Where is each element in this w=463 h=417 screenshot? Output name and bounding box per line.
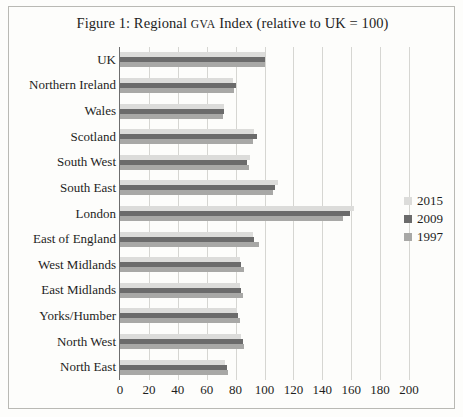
legend-item: 1997 bbox=[404, 228, 443, 246]
y-axis-category-label: Yorks/Humber bbox=[12, 308, 116, 324]
x-tick-label: 160 bbox=[341, 382, 361, 398]
y-axis-category-label: London bbox=[12, 206, 116, 222]
x-tick-label: 20 bbox=[142, 382, 155, 398]
y-axis-category-label: North East bbox=[12, 359, 116, 375]
legend-label: 1997 bbox=[417, 229, 443, 245]
x-tick-label: 80 bbox=[229, 382, 242, 398]
legend-item: 2015 bbox=[404, 192, 443, 210]
bar bbox=[120, 242, 259, 247]
x-tick-label: 100 bbox=[255, 382, 275, 398]
legend-swatch-icon bbox=[404, 197, 412, 205]
y-axis-category-label: East Midlands bbox=[12, 282, 116, 298]
x-tick-label: 180 bbox=[370, 382, 390, 398]
y-axis-category-label: East of England bbox=[12, 231, 116, 247]
bar bbox=[120, 190, 273, 195]
legend-swatch-icon bbox=[404, 215, 412, 223]
x-tick-label: 140 bbox=[313, 382, 333, 398]
x-tick-label: 60 bbox=[200, 382, 213, 398]
x-tick-label: 200 bbox=[399, 382, 419, 398]
x-tick-label: 0 bbox=[117, 382, 124, 398]
gridline bbox=[380, 47, 381, 380]
gridline bbox=[351, 47, 352, 380]
bar bbox=[120, 293, 243, 298]
bar bbox=[120, 344, 244, 349]
y-axis-category-label: South East bbox=[12, 180, 116, 196]
y-axis-category-label: South West bbox=[12, 154, 116, 170]
bar bbox=[120, 216, 343, 221]
bar bbox=[120, 318, 240, 323]
bar bbox=[120, 62, 265, 67]
chart-legend: 201520091997 bbox=[404, 192, 443, 246]
x-tick-label: 120 bbox=[284, 382, 304, 398]
bar bbox=[120, 139, 253, 144]
figure-frame: Figure 1: Regional GVA Index (relative t… bbox=[8, 6, 455, 409]
bar bbox=[120, 165, 249, 170]
bar bbox=[120, 370, 228, 375]
legend-label: 2015 bbox=[417, 193, 443, 209]
y-axis-category-label: UK bbox=[12, 52, 116, 68]
y-axis-category-label: Scotland bbox=[12, 129, 116, 145]
plot-area: 020406080100120140160180200 UKNorthern I… bbox=[119, 47, 408, 380]
bar bbox=[120, 88, 234, 93]
legend-label: 2009 bbox=[417, 211, 443, 227]
y-axis-category-label: Northern Ireland bbox=[12, 77, 116, 93]
legend-item: 2009 bbox=[404, 210, 443, 228]
bar bbox=[120, 267, 244, 272]
x-tick-label: 40 bbox=[171, 382, 184, 398]
bar bbox=[120, 114, 223, 119]
legend-swatch-icon bbox=[404, 233, 412, 241]
plot-wrap: 020406080100120140160180200 UKNorthern I… bbox=[9, 7, 456, 410]
y-axis-category-label: Wales bbox=[12, 103, 116, 119]
y-axis-category-label: West Midlands bbox=[12, 257, 116, 273]
y-axis-category-label: North West bbox=[12, 334, 116, 350]
